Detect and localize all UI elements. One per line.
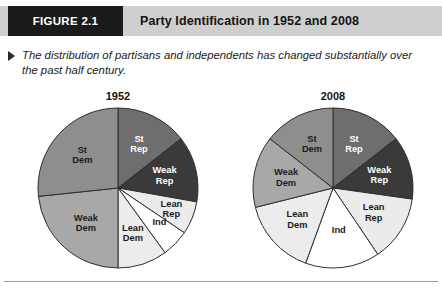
pie-svg [18,104,218,272]
figure-container: FIGURE 2.1 Party Identification in 1952 … [0,0,442,296]
bottom-divider [4,281,438,282]
pie-svg [233,104,433,272]
chart-year-label: 1952 [18,88,218,104]
caption-text: The distribution of partisans and indepe… [22,48,430,78]
triangle-right-icon [8,51,15,61]
pie-chart-2008: 2008 St RepWeak RepLean RepIndLean DemWe… [233,88,433,272]
figure-title: Party Identification in 1952 and 2008 [140,6,359,36]
pie-wrap-2008: St RepWeak RepLean RepIndLean DemWeak De… [233,104,433,272]
figure-caption: The distribution of partisans and indepe… [8,48,434,78]
figure-number-label: FIGURE 2.1 [33,15,99,27]
figure-number-tab: FIGURE 2.1 [8,6,123,36]
chart-year-label: 2008 [233,88,433,104]
charts-area: 1952 St RepWeak RepLean RepIndLean DemWe… [0,88,442,273]
pie-wrap-1952: St RepWeak RepLean RepIndLean DemWeak De… [18,104,218,272]
pie-chart-1952: 1952 St RepWeak RepLean RepIndLean DemWe… [18,88,218,272]
pie-slice-weak-dem [38,188,118,268]
pie-slice-st-dem [38,108,118,196]
